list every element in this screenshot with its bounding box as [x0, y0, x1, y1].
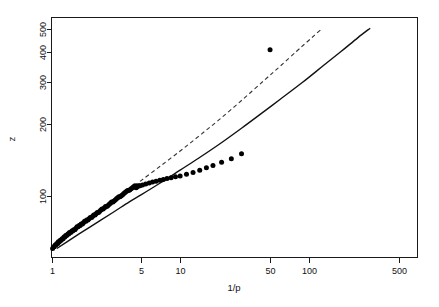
x-tick-label: 500 — [392, 266, 407, 276]
fitted-curve-solid — [57, 28, 370, 248]
data-point — [169, 175, 174, 180]
data-point — [204, 165, 209, 170]
data-point — [268, 47, 273, 52]
data-point — [229, 156, 234, 161]
y-axis-tick-labels: 100200300400500 — [38, 22, 48, 204]
x-axis-title: 1/p — [227, 282, 240, 293]
x-axis-ticks — [53, 258, 400, 263]
data-point — [184, 172, 189, 177]
y-tick-label: 200 — [38, 117, 48, 132]
data-point — [197, 168, 202, 173]
plot-frame — [52, 18, 418, 258]
plot-figure: 151050100500 100200300400500 1/p z — [0, 0, 439, 307]
y-tick-label: 500 — [38, 22, 48, 37]
x-axis-tick-labels: 151050100500 — [50, 266, 407, 276]
y-axis-title: z — [6, 136, 17, 141]
x-tick-label: 1 — [50, 266, 55, 276]
x-tick-label: 50 — [265, 266, 275, 276]
x-tick-label: 10 — [175, 266, 185, 276]
x-tick-label: 5 — [139, 266, 144, 276]
y-tick-label: 400 — [38, 45, 48, 60]
data-point — [178, 173, 183, 178]
data-point — [210, 163, 215, 168]
data-point — [173, 174, 178, 179]
y-tick-label: 300 — [38, 75, 48, 90]
y-tick-label: 100 — [38, 189, 48, 204]
scatter-points — [50, 47, 272, 251]
plot-canvas: 151050100500 100200300400500 1/p z — [0, 0, 439, 307]
data-point — [191, 170, 196, 175]
x-tick-label: 100 — [302, 266, 317, 276]
data-point — [219, 160, 224, 165]
data-point — [239, 151, 244, 156]
